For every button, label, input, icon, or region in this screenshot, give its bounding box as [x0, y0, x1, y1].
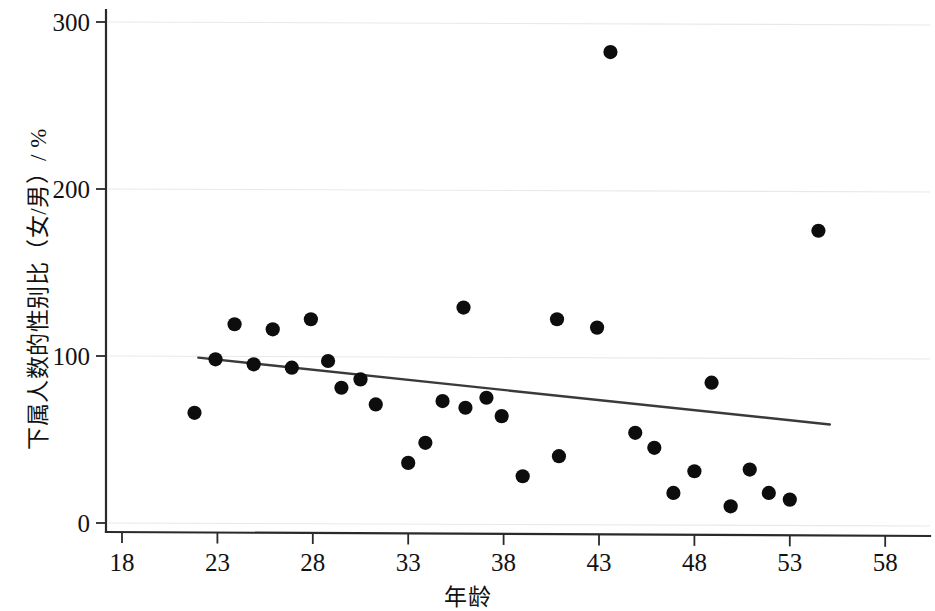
data-point — [187, 406, 201, 420]
data-point — [495, 409, 509, 423]
data-point — [369, 397, 383, 411]
data-point — [479, 391, 493, 405]
data-point — [456, 300, 470, 314]
data-point — [590, 321, 604, 335]
x-axis-line — [106, 532, 930, 536]
x-tick-label: 23 — [205, 550, 230, 575]
data-point — [266, 322, 280, 336]
x-tick-label: 33 — [396, 550, 421, 575]
data-point — [334, 381, 348, 395]
data-point — [704, 376, 718, 390]
tick-marks — [96, 22, 885, 547]
data-point — [666, 486, 680, 500]
data-point — [687, 464, 701, 478]
data-point — [743, 462, 757, 476]
x-tick-label: 18 — [110, 550, 135, 575]
data-point — [304, 312, 318, 326]
x-tick-label: 28 — [300, 550, 325, 575]
data-points — [187, 45, 825, 513]
data-point — [208, 352, 222, 366]
data-point — [285, 361, 299, 375]
data-point — [552, 449, 566, 463]
data-point — [227, 317, 241, 331]
x-tick-label: 43 — [587, 550, 612, 575]
data-point — [762, 486, 776, 500]
data-point — [647, 441, 661, 455]
data-point — [603, 45, 617, 59]
y-axis-title: 下属人数的性别比（女/男）/ % — [19, 99, 53, 479]
x-tick-label: 38 — [491, 550, 516, 575]
data-point — [418, 436, 432, 450]
plot-canvas — [0, 0, 935, 611]
data-point — [247, 357, 261, 371]
gridline — [108, 523, 930, 526]
axis-lines — [106, 10, 930, 536]
scatter-chart-figure: 3002001000 182328333843485358 下属人数的性别比（女… — [0, 0, 935, 611]
data-point — [550, 312, 564, 326]
data-point — [811, 224, 825, 238]
x-axis-title: 年龄 — [0, 578, 935, 611]
gridlines — [108, 22, 930, 526]
y-tick-label: 300 — [0, 10, 90, 35]
data-point — [458, 401, 472, 415]
data-point — [401, 456, 415, 470]
gridline — [108, 22, 930, 25]
data-point — [724, 499, 738, 513]
data-point — [628, 426, 642, 440]
data-point — [516, 469, 530, 483]
gridline — [108, 356, 930, 359]
data-point — [783, 493, 797, 507]
data-point — [321, 354, 335, 368]
data-point — [435, 394, 449, 408]
gridline — [108, 189, 930, 192]
data-point — [353, 372, 367, 386]
x-tick-label: 53 — [777, 550, 802, 575]
x-tick-label: 58 — [873, 550, 898, 575]
x-tick-label: 48 — [682, 550, 707, 575]
y-tick-label: 0 — [0, 511, 90, 536]
